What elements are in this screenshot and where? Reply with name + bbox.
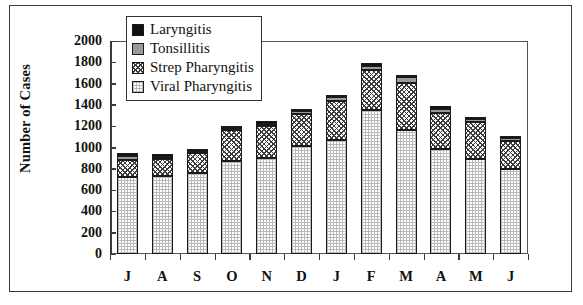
x-tick-label: J (110, 268, 144, 285)
bar-segment (465, 122, 486, 159)
bar-segment (326, 95, 347, 98)
bar-segment (221, 126, 242, 129)
bar-segment (291, 109, 312, 112)
bar-stack[interactable] (465, 41, 486, 254)
legend-item[interactable]: Viral Pharyngitis (132, 77, 254, 96)
y-tick-label: 0 (50, 247, 102, 261)
bar-segment (256, 124, 277, 126)
legend-item[interactable]: Laryngitis (132, 20, 254, 39)
y-tick-label: 1200 (50, 119, 102, 133)
bar-segment (187, 173, 208, 254)
bar-segment (152, 176, 173, 254)
bar-segment (396, 77, 417, 82)
y-tick-label: 800 (50, 162, 102, 176)
bar-segment (326, 101, 347, 140)
bar-segment (361, 66, 382, 70)
x-tick-mark (180, 254, 181, 260)
bar-segment (396, 130, 417, 254)
y-tick-mark (110, 211, 116, 213)
legend-label: Laryngitis (150, 22, 212, 37)
x-tick-label: A (145, 268, 179, 285)
y-tick-label: 1000 (50, 141, 102, 155)
y-tick-mark (110, 190, 116, 192)
bar-segment (465, 119, 486, 122)
legend-label: Tonsillitis (150, 41, 210, 56)
legend-swatch-icon (132, 81, 144, 93)
bar-segment (465, 117, 486, 120)
y-tick-label: 200 (50, 226, 102, 240)
y-tick-mark (110, 232, 116, 234)
x-tick-label: D (285, 268, 319, 285)
bar-segment (187, 149, 208, 151)
y-tick-label: 2000 (50, 34, 102, 48)
bar-segment (430, 109, 451, 113)
bar-segment (326, 140, 347, 254)
bar-stack[interactable] (500, 41, 521, 254)
bar-segment (430, 106, 451, 109)
bar-segment (500, 169, 521, 254)
y-tick-mark (110, 104, 116, 106)
bar-stack[interactable] (396, 41, 417, 254)
bar-segment (152, 159, 173, 177)
bar-segment (361, 70, 382, 110)
x-tick-label: J (319, 268, 353, 285)
y-tick-mark (110, 83, 116, 85)
x-tick-mark (110, 254, 111, 260)
x-tick-label: S (180, 268, 214, 285)
x-tick-mark (215, 254, 216, 260)
legend-label: Viral Pharyngitis (150, 79, 252, 94)
x-tick-label: J (494, 268, 528, 285)
bar-segment (291, 146, 312, 254)
y-tick-mark (110, 147, 116, 149)
bar-segment (430, 149, 451, 254)
x-tick-mark (458, 254, 459, 260)
legend-swatch-icon (132, 24, 144, 36)
bar-segment (117, 156, 138, 160)
x-tick-mark (284, 254, 285, 260)
bar-segment (396, 83, 417, 131)
bar-segment (187, 151, 208, 153)
bar-segment (256, 121, 277, 124)
bar-stack[interactable] (430, 41, 451, 254)
y-tick-mark (110, 168, 116, 170)
y-tick-label: 600 (50, 183, 102, 197)
bar-segment (500, 136, 521, 138)
y-axis-title: Number of Cases (17, 34, 34, 204)
x-tick-mark (389, 254, 390, 260)
bar-segment (117, 177, 138, 254)
bar-segment (361, 110, 382, 254)
bar-segment (361, 63, 382, 66)
y-tick-mark (110, 126, 116, 128)
bar-segment (221, 130, 242, 161)
bar-stack[interactable] (291, 41, 312, 254)
y-tick-mark (110, 62, 116, 64)
bar-segment (152, 154, 173, 157)
bar-segment (291, 111, 312, 114)
legend-item[interactable]: Tonsillitis (132, 39, 254, 58)
x-tick-label: A (424, 268, 458, 285)
x-tick-label: M (389, 268, 423, 285)
bar-segment (117, 153, 138, 156)
chart-figure: Number of Cases 020040060080010001200140… (0, 0, 583, 305)
legend-label: Strep Pharyngitis (150, 60, 254, 75)
bar-segment (117, 160, 138, 178)
bar-segment (291, 114, 312, 146)
bar-segment (152, 157, 173, 159)
bar-segment (326, 97, 347, 100)
bar-stack[interactable] (326, 41, 347, 254)
x-tick-label: O (215, 268, 249, 285)
bar-segment (500, 138, 521, 141)
x-tick-mark (249, 254, 250, 260)
bar-stack[interactable] (361, 41, 382, 254)
y-tick-mark (110, 41, 116, 43)
y-tick-label: 1400 (50, 98, 102, 112)
x-tick-mark (145, 254, 146, 260)
bar-segment (221, 128, 242, 130)
x-tick-label: N (250, 268, 284, 285)
legend-item[interactable]: Strep Pharyngitis (132, 58, 254, 77)
bar-segment (465, 159, 486, 254)
bar-segment (221, 161, 242, 254)
x-tick-mark (493, 254, 494, 260)
bar-segment (500, 141, 521, 169)
bar-segment (256, 158, 277, 254)
